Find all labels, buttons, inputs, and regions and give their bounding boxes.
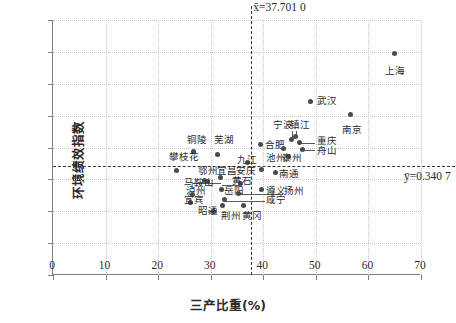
data-point-label: 攀枝花 (169, 152, 199, 162)
data-point-label: 上海 (385, 66, 405, 76)
leader-xianning (225, 201, 264, 202)
x-axis-tick-label: 0 (32, 260, 72, 272)
x-axis-tick (368, 275, 369, 280)
data-point[interactable] (259, 167, 264, 172)
x-axis-tick (53, 275, 54, 280)
x-axis-tick (158, 275, 159, 280)
gridline-horizontal (53, 52, 421, 53)
x-axis-tick-label: 70 (400, 260, 440, 272)
data-point[interactable] (289, 137, 294, 142)
y-axis-tick (48, 116, 53, 117)
data-point-label: 南京 (342, 125, 362, 135)
gridline-horizontal (53, 148, 421, 149)
data-point-label: 舟山 (317, 146, 337, 156)
data-point-label: 南通 (279, 169, 299, 179)
x-axis-tick-label: 60 (347, 260, 387, 272)
x-axis-tick-label: 10 (85, 260, 125, 272)
gridline-vertical (421, 20, 422, 275)
data-point-label: 铜陵 (187, 135, 207, 145)
data-point-label: 宜宾 (184, 195, 204, 205)
y-axis-tick (48, 52, 53, 53)
x-axis-tick (316, 275, 317, 280)
x-axis-tick-label: 20 (137, 260, 177, 272)
scatter-chart-figure: 环境绩效指数 三产比重(%) 上海武汉南京镇江宁波重庆合肥池州舟山铜陵芜湖泰州九… (0, 0, 456, 323)
data-point-label: 九江 (237, 155, 257, 165)
data-point[interactable] (273, 170, 278, 175)
data-point[interactable] (220, 203, 225, 208)
data-point[interactable] (297, 140, 302, 145)
data-point[interactable] (215, 152, 220, 157)
gridline-horizontal (53, 84, 421, 85)
x-axis-tick (106, 275, 107, 280)
y-axis-tick (48, 211, 53, 212)
gridline-vertical (211, 20, 212, 275)
x-axis-tick-label: 40 (242, 260, 282, 272)
gridline-vertical (158, 20, 159, 275)
data-point-label: 咸宁 (266, 195, 286, 205)
gridline-horizontal (53, 116, 421, 117)
data-point-label: 武汉 (317, 96, 337, 106)
gridline-vertical (368, 20, 369, 275)
gridline-vertical (106, 20, 107, 275)
y-axis-tick (48, 84, 53, 85)
x-axis-tick (211, 275, 212, 280)
data-point[interactable] (281, 146, 286, 151)
gridline-horizontal (53, 243, 421, 244)
data-point[interactable] (259, 187, 264, 192)
data-point-label: 昭通 (198, 206, 218, 216)
data-point-label: 荆州 (221, 211, 241, 221)
data-point[interactable] (219, 187, 224, 192)
data-point[interactable] (241, 203, 246, 208)
data-point[interactable] (174, 168, 179, 173)
gridline-horizontal (53, 20, 421, 21)
x-mean-line (251, 6, 252, 275)
data-point-label: 岳阳 (224, 186, 244, 196)
data-point[interactable] (236, 191, 241, 196)
data-point[interactable] (392, 51, 397, 56)
x-axis-tick-label: 30 (190, 260, 230, 272)
data-point-label: 扬州 (284, 186, 304, 196)
x-axis-tick (421, 275, 422, 280)
data-point[interactable] (308, 99, 313, 104)
data-point[interactable] (293, 134, 298, 139)
data-point-label: 黄石 (232, 176, 252, 186)
y-axis-tick (48, 179, 53, 180)
x-mean-label: x̄=37.701 0 (253, 1, 306, 13)
data-point[interactable] (348, 112, 353, 117)
gridline-vertical (263, 20, 264, 275)
x-axis-tick-label: 50 (295, 260, 335, 272)
data-point-label: 宁波 (273, 120, 293, 130)
x-axis-tick (263, 275, 264, 280)
x-axis-title: 三产比重(%) (0, 295, 456, 314)
plot-area: 上海武汉南京镇江宁波重庆合肥池州舟山铜陵芜湖泰州九江攀枝花安庆南通鄂州宜昌黄石马… (52, 20, 420, 275)
data-point-label: 黄冈 (242, 211, 262, 221)
y-axis-tick (48, 148, 53, 149)
data-point-label: 泰州 (282, 153, 302, 163)
data-point-label: 芜湖 (214, 135, 234, 145)
y-axis-tick (48, 20, 53, 21)
leader-chongqing (300, 143, 315, 144)
y-axis-tick (48, 243, 53, 244)
y-mean-label: ȳ=0.340 7 (404, 170, 451, 182)
data-point-label: 鄂州 (198, 166, 218, 176)
